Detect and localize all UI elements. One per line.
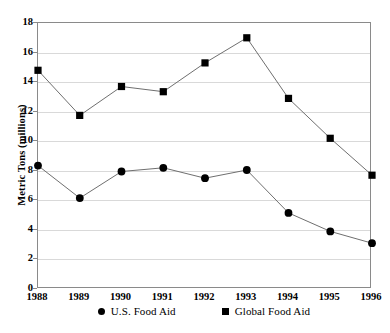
legend-square-marker-icon — [222, 308, 229, 315]
data-point-marker — [160, 88, 167, 95]
data-point-marker — [76, 194, 84, 202]
x-tick-label: 1989 — [57, 291, 101, 303]
data-point-marker — [34, 67, 41, 74]
x-tick-label: 1994 — [266, 291, 310, 303]
y-tick-label: 10 — [12, 134, 33, 145]
data-point-marker — [285, 209, 293, 217]
y-tick-label: 8 — [12, 164, 33, 175]
legend-label: U.S. Food Aid — [111, 305, 176, 317]
data-point-marker — [34, 162, 42, 170]
legend-entry: Global Food Aid — [222, 305, 310, 317]
series-line-global-food-aid — [38, 38, 372, 175]
data-point-marker — [243, 34, 250, 41]
data-point-marker — [368, 172, 375, 179]
plot-area — [37, 22, 371, 288]
y-tick-label: 16 — [12, 46, 33, 57]
food-aid-line-chart: Metric Tons (millions) 024681012141618 1… — [0, 0, 390, 333]
data-point-marker — [327, 135, 334, 142]
data-point-marker — [159, 164, 167, 172]
x-tick-label: 1992 — [182, 291, 226, 303]
series-layer — [38, 23, 372, 289]
chart-legend: U.S. Food AidGlobal Food Aid — [37, 303, 371, 319]
data-point-marker — [243, 166, 251, 174]
y-tick-mark — [33, 288, 37, 289]
y-tick-label: 6 — [12, 193, 33, 204]
y-tick-label: 4 — [12, 223, 33, 234]
x-tick-label: 1993 — [224, 291, 268, 303]
legend-label: Global Food Aid — [235, 305, 310, 317]
legend-entry: U.S. Food Aid — [98, 305, 176, 317]
data-point-marker — [201, 174, 209, 182]
data-point-marker — [118, 83, 125, 90]
data-point-marker — [118, 168, 126, 176]
data-point-marker — [285, 95, 292, 102]
x-tick-label: 1991 — [140, 291, 184, 303]
y-axis-title: Metric Tons (millions) — [14, 22, 30, 288]
data-point-marker — [368, 239, 376, 247]
x-tick-label: 1990 — [99, 291, 143, 303]
legend-circle-marker-icon — [98, 308, 105, 315]
y-tick-label: 12 — [12, 105, 33, 116]
y-tick-label: 18 — [12, 16, 33, 27]
y-tick-label: 14 — [12, 75, 33, 86]
data-point-marker — [326, 228, 334, 236]
x-tick-label: 1995 — [307, 291, 351, 303]
cropped-caption-text — [150, 325, 390, 333]
x-tick-label: 1996 — [349, 291, 390, 303]
data-point-marker — [201, 59, 208, 66]
data-point-marker — [76, 112, 83, 119]
x-tick-label: 1988 — [15, 291, 59, 303]
y-tick-label: 2 — [12, 252, 33, 263]
